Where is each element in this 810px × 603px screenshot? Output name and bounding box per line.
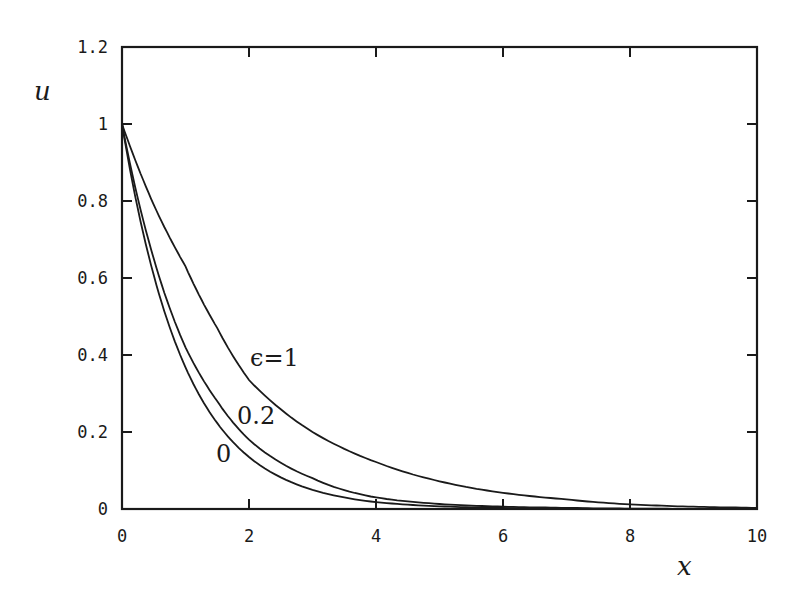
y-axis-label: u (34, 76, 51, 106)
x-tick-label: 6 (498, 526, 508, 546)
tick-labels: 024681000.20.40.60.811.2 (77, 37, 767, 546)
x-tick-label: 0 (117, 526, 127, 546)
curve-label-eps1: ϵ=1 (250, 344, 299, 372)
curve-label-eps02: 0.2 (237, 402, 275, 430)
y-tick-label: 1.2 (77, 37, 108, 57)
y-tick-label: 0.4 (77, 345, 108, 365)
curve-label-eps0: 0 (216, 440, 231, 468)
x-tick-label: 2 (244, 526, 254, 546)
y-tick-label: 0.2 (77, 422, 108, 442)
x-tick-label: 4 (371, 526, 381, 546)
y-tick-label: 1 (98, 114, 108, 134)
x-tick-label: 8 (625, 526, 635, 546)
x-axis-label: x (677, 551, 692, 581)
y-tick-label: 0.6 (77, 268, 108, 288)
chart: 024681000.20.40.60.811.2 u x ϵ=1 0.2 0 (0, 0, 810, 603)
y-tick-label: 0 (98, 499, 108, 519)
x-tick-label: 10 (747, 526, 767, 546)
y-tick-label: 0.8 (77, 191, 108, 211)
